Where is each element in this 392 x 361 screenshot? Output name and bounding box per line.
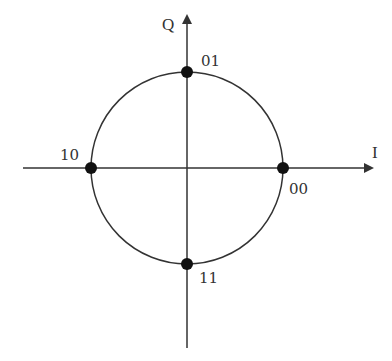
point-label-10: 10 xyxy=(60,146,79,164)
point-label-00: 00 xyxy=(289,180,308,198)
constellation-point-01 xyxy=(181,66,193,78)
constellation-point-11 xyxy=(181,258,193,270)
constellation-point-00 xyxy=(277,162,289,174)
constellation-diagram: Q I 00 01 10 11 xyxy=(0,0,392,361)
i-axis-label: I xyxy=(372,143,378,162)
constellation-point-10 xyxy=(85,162,97,174)
q-axis-label: Q xyxy=(162,15,174,34)
point-label-01: 01 xyxy=(201,52,220,70)
point-label-11: 11 xyxy=(199,269,218,287)
